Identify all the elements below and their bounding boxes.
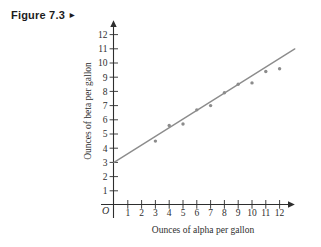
data-point	[237, 83, 240, 86]
x-tick-label: 4	[167, 208, 172, 218]
y-axis-arrow-icon	[110, 20, 116, 27]
y-tick-label: 5	[103, 129, 108, 139]
x-tick-label: 2	[139, 208, 144, 218]
figure-7-3-page: Figure 7.3► 1234567891011121234567891011…	[0, 0, 321, 247]
y-tick-label: 1	[103, 186, 108, 196]
x-axis-title: Ounces of alpha per gallon	[123, 225, 283, 235]
x-tick-label: 10	[247, 208, 257, 218]
y-tick-label: 4	[103, 144, 108, 154]
y-tick-label: 8	[103, 87, 108, 97]
y-axis-title: Ounces of beta per gallon	[83, 46, 93, 176]
y-tick-label: 6	[103, 115, 108, 125]
x-tick-label: 9	[236, 208, 241, 218]
data-point	[223, 91, 226, 94]
y-tick-label: 12	[98, 30, 108, 40]
y-tick-label: 9	[103, 73, 108, 83]
data-point	[181, 122, 184, 125]
x-tick-label: 3	[153, 208, 158, 218]
y-tick-label: 10	[98, 58, 108, 68]
data-point	[168, 124, 171, 127]
y-tick-label: 2	[103, 172, 108, 182]
x-tick-label: 1	[125, 208, 130, 218]
data-point	[209, 104, 212, 107]
x-tick-label: 8	[222, 208, 227, 218]
data-point	[195, 108, 198, 111]
origin-label: O	[102, 205, 109, 216]
data-point	[250, 81, 253, 84]
y-tick-label: 3	[103, 158, 108, 168]
x-tick-label: 11	[261, 208, 270, 218]
scatter-plot: 123456789101112123456789101112	[0, 0, 321, 247]
x-tick-label: 7	[208, 208, 213, 218]
x-tick-label: 6	[194, 208, 199, 218]
data-point	[154, 139, 157, 142]
y-tick-label: 11	[98, 44, 107, 54]
y-tick-label: 7	[103, 101, 108, 111]
data-point	[264, 70, 267, 73]
trend-line	[114, 49, 295, 162]
x-tick-label: 5	[181, 208, 186, 218]
data-point	[278, 67, 281, 70]
x-axis-arrow-icon	[288, 201, 295, 207]
x-tick-label: 12	[275, 208, 285, 218]
